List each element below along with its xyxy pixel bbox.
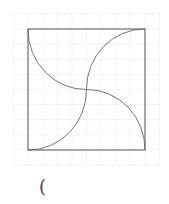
pinwheel-diagram	[0, 0, 169, 204]
caption-text: (	[39, 176, 46, 197]
